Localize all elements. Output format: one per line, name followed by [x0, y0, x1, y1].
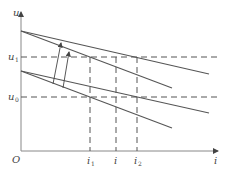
y-axis-label: u [13, 7, 19, 18]
origin-label: O [12, 154, 20, 165]
u1-subscript: 1 [15, 56, 19, 63]
diagram-canvas: u O i u 1 u 0 i 1 i i 2 [0, 0, 231, 173]
x-axis-label: i [214, 155, 217, 166]
i2-subscript: 2 [138, 160, 142, 167]
i-label: i [114, 155, 117, 166]
reference-lines [21, 57, 218, 151]
u1-label: u [8, 51, 14, 62]
u0-label: u [8, 91, 14, 102]
u0-subscript: 0 [15, 96, 19, 103]
axes [21, 12, 218, 151]
i1-subscript: 1 [91, 160, 95, 167]
upper-shallow-line [21, 31, 209, 74]
i1-label: i [87, 155, 90, 166]
i2-label: i [134, 155, 137, 166]
shift-arrow-1 [53, 43, 61, 84]
labels: u O i u 1 u 0 i 1 i i 2 [8, 7, 217, 167]
characteristic-lines [21, 31, 209, 128]
